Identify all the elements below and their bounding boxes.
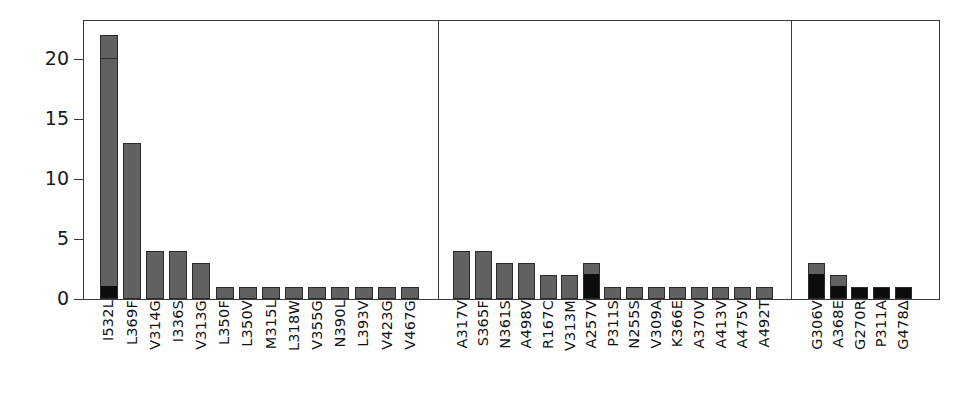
- bar-A317V[interactable]: [453, 251, 470, 299]
- bar-G306V[interactable]: [808, 263, 825, 299]
- bar-I336S[interactable]: [169, 251, 187, 299]
- bar-V309A[interactable]: [648, 287, 665, 299]
- panel-1: [97, 20, 437, 300]
- x-label-slot: L369F: [120, 300, 143, 393]
- bar-segment: [101, 58, 117, 286]
- x-label-slot: I532L: [97, 300, 120, 393]
- bar-slot[interactable]: [624, 20, 646, 300]
- bar-slot[interactable]: [732, 20, 754, 300]
- x-label-slot: N390L: [329, 300, 352, 393]
- bar-L350V[interactable]: [239, 287, 257, 299]
- bar-slot[interactable]: [120, 20, 143, 300]
- bar-slot[interactable]: [892, 20, 914, 300]
- bar-A257V[interactable]: [583, 263, 600, 299]
- bar-slot[interactable]: [473, 20, 495, 300]
- bar-slot[interactable]: [97, 20, 120, 300]
- bar-A475V[interactable]: [734, 287, 751, 299]
- x-label-slot: G270R: [849, 300, 871, 393]
- bar-slot[interactable]: [283, 20, 306, 300]
- bar-segment: [263, 287, 279, 298]
- y-axis-tick-mark: [74, 239, 83, 240]
- bar-slot[interactable]: [306, 20, 329, 300]
- bar-slot[interactable]: [537, 20, 559, 300]
- x-axis-label-L350V: L350V: [240, 300, 255, 349]
- bar-N390L[interactable]: [331, 287, 349, 299]
- bar-slot[interactable]: [167, 20, 190, 300]
- bar-slot[interactable]: [871, 20, 893, 300]
- bar-R167C[interactable]: [540, 275, 557, 299]
- bar-slot[interactable]: [494, 20, 516, 300]
- bar-L350F[interactable]: [216, 287, 234, 299]
- bar-slot[interactable]: [710, 20, 732, 300]
- bar-slot[interactable]: [329, 20, 352, 300]
- bar-P311S[interactable]: [604, 287, 621, 299]
- bar-segment: [379, 287, 395, 298]
- bar-segment: [217, 287, 233, 298]
- bar-A368E[interactable]: [830, 275, 847, 299]
- bar-slot[interactable]: [190, 20, 213, 300]
- bar-slot[interactable]: [375, 20, 398, 300]
- panel-3-x-labels: G306VA368EG270RP311AG478Δ: [806, 300, 940, 393]
- bar-V314G[interactable]: [146, 251, 164, 299]
- bar-L318W[interactable]: [285, 287, 303, 299]
- bar-slot[interactable]: [352, 20, 375, 300]
- bar-S365F[interactable]: [475, 251, 492, 299]
- bar-M315L[interactable]: [262, 287, 280, 299]
- x-label-slot: L350V: [236, 300, 259, 393]
- bar-P311A[interactable]: [873, 287, 890, 299]
- bar-G270R[interactable]: [851, 287, 868, 299]
- bar-A413V[interactable]: [712, 287, 729, 299]
- bar-slot[interactable]: [645, 20, 667, 300]
- bar-V313G[interactable]: [192, 263, 210, 299]
- bar-slot[interactable]: [398, 20, 421, 300]
- bar-slot[interactable]: [849, 20, 871, 300]
- bar-slot[interactable]: [753, 20, 775, 300]
- bar-slot[interactable]: [602, 20, 624, 300]
- bar-slot[interactable]: [451, 20, 473, 300]
- bar-N255S[interactable]: [626, 287, 643, 299]
- bar-segment: [147, 251, 163, 298]
- x-label-slot: L318W: [283, 300, 306, 393]
- bar-slot[interactable]: [667, 20, 689, 300]
- x-label-slot: A257V: [581, 300, 603, 393]
- bar-segment: [454, 251, 469, 298]
- bar-V355G[interactable]: [308, 287, 326, 299]
- x-axis-label-N255S: N255S: [627, 300, 642, 351]
- bar-L369F[interactable]: [123, 143, 141, 299]
- x-label-slot: N255S: [624, 300, 646, 393]
- bar-I532L[interactable]: [100, 35, 118, 299]
- bar-A498V[interactable]: [518, 263, 535, 299]
- x-label-slot: L350F: [213, 300, 236, 393]
- bar-G478Δ[interactable]: [895, 287, 912, 299]
- bar-A370V[interactable]: [691, 287, 708, 299]
- bar-slot[interactable]: [143, 20, 166, 300]
- bar-segment: [497, 263, 512, 298]
- x-label-slot: I336S: [167, 300, 190, 393]
- x-axis-label-A492T: A492T: [757, 300, 772, 349]
- bar-segment: [809, 263, 824, 274]
- bar-slot[interactable]: [581, 20, 603, 300]
- bar-segment: [584, 274, 599, 298]
- bar-V313M[interactable]: [561, 275, 578, 299]
- bar-A492T[interactable]: [756, 287, 773, 299]
- bar-slot[interactable]: [806, 20, 828, 300]
- bar-segment: [896, 287, 911, 298]
- bar-slot[interactable]: [689, 20, 711, 300]
- x-axis-label-P311S: P311S: [606, 300, 621, 349]
- bar-L393V[interactable]: [355, 287, 373, 299]
- bar-slot[interactable]: [828, 20, 850, 300]
- x-axis-label-M315L: M315L: [264, 300, 279, 351]
- bar-slot[interactable]: [559, 20, 581, 300]
- bar-segment: [670, 287, 685, 298]
- bar-slot[interactable]: [259, 20, 282, 300]
- bar-V423G[interactable]: [378, 287, 396, 299]
- x-label-slot: R167C: [537, 300, 559, 393]
- bar-K366E[interactable]: [669, 287, 686, 299]
- bar-slot[interactable]: [213, 20, 236, 300]
- x-axis-label-L350F: L350F: [217, 300, 232, 347]
- bar-slot[interactable]: [236, 20, 259, 300]
- bar-V467G[interactable]: [401, 287, 419, 299]
- bar-slot[interactable]: [516, 20, 538, 300]
- x-axis-label-A498V: A498V: [519, 300, 534, 351]
- bar-N361S[interactable]: [496, 263, 513, 299]
